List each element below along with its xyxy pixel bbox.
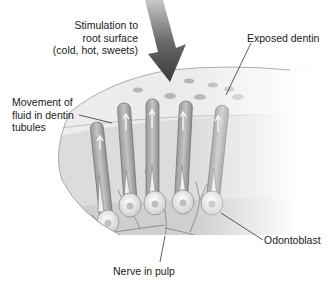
label-stimulation: Stimulation to root surface (cold, hot, … (48, 19, 138, 57)
label-nerve-in-pulp: Nerve in pulp (113, 265, 175, 278)
label-odontoblast: Odontoblast (264, 234, 321, 247)
label-exposed-dentin: Exposed dentin (247, 32, 319, 45)
diagram-canvas: Stimulation to root surface (cold, hot, … (0, 0, 333, 292)
label-fluid-movement: Movement of fluid in dentin tubules (12, 96, 74, 134)
tooth-cross-section (40, 60, 320, 250)
